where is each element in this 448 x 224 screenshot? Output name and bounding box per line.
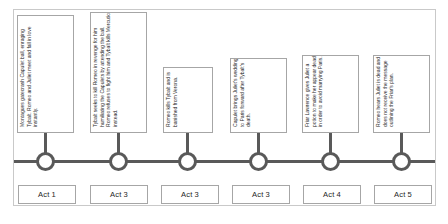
event-box: Friar Lawrence gives Juliet a potion to …: [302, 55, 359, 133]
event-box: Montagues gatecrash Capulet ball, enragi…: [17, 15, 74, 133]
act-box: Act 5: [374, 185, 432, 204]
event-description: Montagues gatecrash Capulet ball, enragi…: [18, 15, 72, 129]
act-label: Act 3: [252, 190, 270, 199]
timeline-node[interactable]: [392, 152, 411, 171]
timeline-node[interactable]: [321, 152, 340, 171]
timeline-axis: [14, 160, 435, 163]
timeline-node[interactable]: [109, 152, 128, 171]
event-stem: [117, 133, 120, 153]
act-box: Act 4: [303, 185, 361, 204]
act-box: Act 3: [232, 185, 290, 204]
act-box: Act 1: [18, 185, 76, 204]
act-label: Act 3: [110, 190, 128, 199]
event-description: Romeo kills Tybalt and is banished from …: [164, 67, 212, 129]
event-stem: [44, 133, 47, 153]
event-description: Romeo hears Juliet is dead and does not …: [374, 55, 428, 129]
event-box: Capulet brings Juliet's wedding to Paris…: [230, 58, 287, 133]
timeline-node[interactable]: [249, 152, 268, 171]
event-box: Tybalt seeks to kill Romeo in revenge fo…: [90, 12, 147, 133]
event-description: Tybalt seeks to kill Romeo in revenge fo…: [91, 12, 145, 129]
act-box: Act 3: [161, 185, 219, 204]
act-label: Act 4: [323, 190, 341, 199]
event-box: Romeo kills Tybalt and is banished from …: [163, 67, 213, 133]
act-label: Act 5: [394, 190, 412, 199]
event-description: Capulet brings Juliet's wedding to Paris…: [231, 58, 285, 129]
event-box: Romeo hears Juliet is dead and does not …: [373, 55, 430, 133]
event-stem: [329, 133, 332, 153]
timeline-node[interactable]: [178, 152, 197, 171]
timeline-diagram: Montagues gatecrash Capulet ball, enragi…: [0, 0, 448, 224]
event-stem: [257, 133, 260, 153]
event-stem: [186, 133, 189, 153]
act-label: Act 3: [181, 190, 199, 199]
act-label: Act 1: [38, 190, 56, 199]
event-description: Friar Lawrence gives Juliet a potion to …: [303, 55, 357, 129]
event-stem: [400, 133, 403, 153]
act-box: Act 3: [90, 185, 148, 204]
timeline-node[interactable]: [36, 152, 55, 171]
